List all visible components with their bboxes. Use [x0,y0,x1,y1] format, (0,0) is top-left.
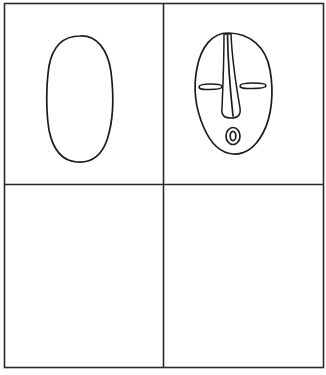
mask-left-eye-icon [199,84,222,90]
mask-right-eye-icon [240,83,266,89]
drawing-grid [0,0,326,375]
panel-top-right [195,33,272,154]
mask-mouth-inner-icon [230,131,236,140]
mask-nose-icon [222,34,240,118]
panel-top-left [47,36,113,162]
oval-outline-icon [47,36,113,162]
mask-mouth-outer-icon [226,128,240,145]
